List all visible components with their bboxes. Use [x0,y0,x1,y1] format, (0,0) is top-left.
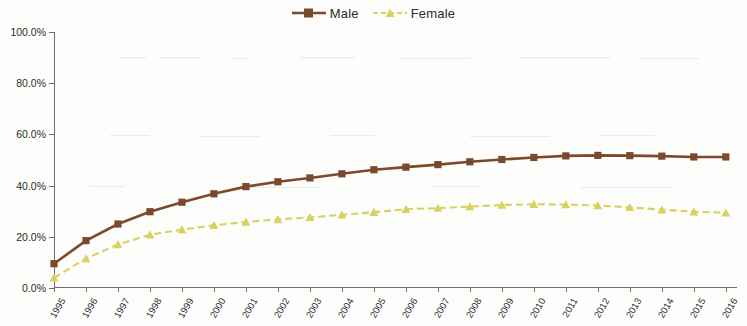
x-axis-label: 2015 [687,296,707,320]
legend-item-female[interactable]: Female [373,6,456,21]
data-point-marker [434,161,441,168]
data-point-marker [626,152,633,159]
data-point-marker [210,190,217,197]
x-axis-label: 2012 [591,296,611,320]
x-axis-label: 2000 [207,296,227,320]
data-point-marker [721,208,730,216]
y-axis-label: 80.0% [16,77,46,89]
x-axis-label: 2008 [463,296,483,320]
data-point-marker [114,220,121,227]
x-axis-label: 2009 [495,296,515,320]
data-point-marker [530,154,537,161]
data-point-marker [50,260,57,267]
data-point-marker [690,153,697,160]
x-axis-label: 2010 [527,296,547,320]
x-axis-label: 1997 [111,296,131,320]
x-axis-label: 2011 [560,296,580,319]
legend-swatch-female-icon [373,7,407,19]
data-point-marker [306,174,313,181]
x-axis-label: 2002 [271,296,291,320]
y-axis-label: 60.0% [16,128,46,140]
x-axis-label: 2003 [303,296,323,320]
data-point-marker [82,237,89,244]
data-point-marker [722,153,729,160]
series-line [54,155,726,263]
x-axis-label: 1996 [79,296,99,320]
data-point-marker [466,158,473,165]
data-point-marker [562,152,569,159]
data-point-marker [402,164,409,171]
data-point-marker [370,166,377,173]
y-axis-label: 40.0% [16,180,46,192]
data-point-marker [594,152,601,159]
data-point-marker [658,153,665,160]
data-point-marker [338,170,345,177]
data-point-marker [274,178,281,185]
y-axis-label: 0.0% [22,282,46,294]
chart-legend: Male Female [0,2,747,24]
x-axis-label: 1998 [143,296,163,320]
data-point-marker [114,240,123,248]
data-point-marker [82,254,91,262]
y-axis-label: 20.0% [16,231,46,243]
data-point-marker [178,199,185,206]
x-axis-label: 2007 [431,296,451,320]
x-axis-label: 2014 [655,296,675,320]
x-axis-label: 2005 [367,296,387,320]
series-line [54,204,726,277]
x-axis-label: 2006 [399,296,419,320]
x-axis-label: 2004 [335,296,355,320]
y-axis-label: 100.0% [10,26,46,38]
x-axis-label: 1995 [47,296,67,320]
line-chart: Male Female 0.0%20.0%40.0%60.0%80.0%100.… [0,0,747,326]
data-point-marker [242,183,249,190]
series-layer [54,32,737,288]
data-point-marker [498,156,505,163]
data-point-marker [50,273,59,281]
x-axis-label: 2001 [239,296,259,320]
legend-swatch-male-icon [292,7,326,19]
plot-area: 0.0%20.0%40.0%60.0%80.0%100.0% 199519961… [54,32,737,288]
x-axis-label: 2013 [623,296,643,320]
x-axis-label: 2016 [719,296,739,320]
data-point-marker [146,230,155,238]
legend-label-female: Female [411,6,456,21]
legend-label-male: Male [330,6,359,21]
legend-item-male[interactable]: Male [292,6,359,21]
x-axis-label: 1999 [175,296,195,320]
data-point-marker [146,208,153,215]
